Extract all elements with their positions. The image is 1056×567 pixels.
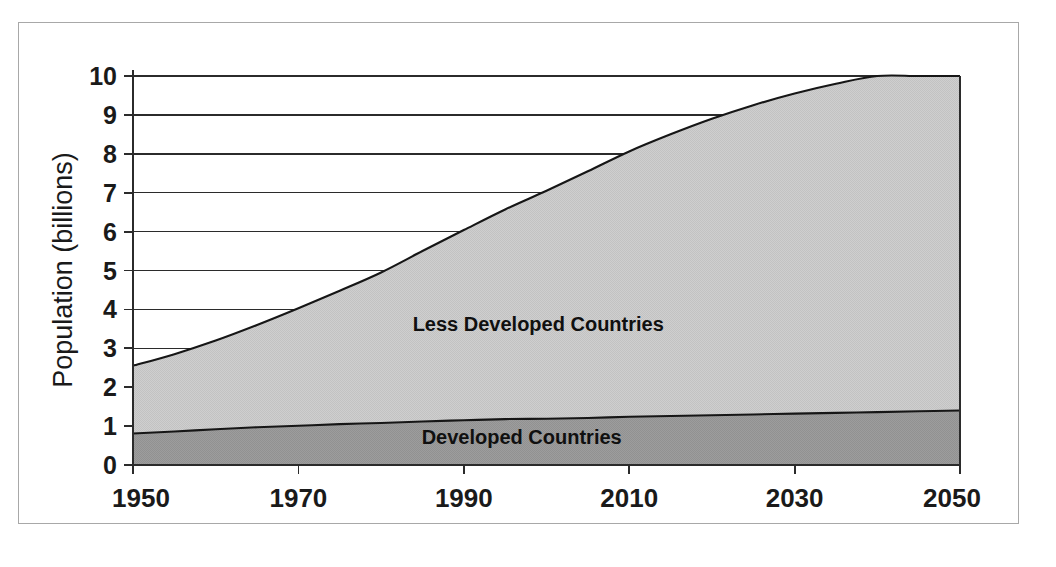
y-tick-label: 4 [103,295,117,323]
x-tick-label: 2010 [600,483,658,513]
y-tick-label: 2 [103,373,117,401]
x-axis-tick-labels: 195019701990201020302050 [112,483,981,513]
y-tick-label: 7 [103,179,117,207]
y-tick-label: 6 [103,218,117,246]
y-axis-tick-labels: 012345678910 [89,62,117,479]
y-tick-label: 10 [89,62,117,90]
y-tick-label: 1 [103,412,117,440]
y-axis-ticks [124,76,133,465]
x-tick-label: 1970 [269,483,327,513]
y-tick-label: 5 [103,257,117,285]
x-tick-label: 2030 [766,483,824,513]
figure-root: 012345678910 195019701990201020302050 Po… [0,0,1056,567]
x-tick-label: 1990 [435,483,493,513]
population-area-chart: 012345678910 195019701990201020302050 Po… [0,0,1056,567]
y-tick-label: 0 [103,451,117,479]
series-label-less-developed-countries: Less Developed Countries [413,313,664,335]
y-tick-label: 3 [103,334,117,362]
x-tick-label: 1950 [112,483,170,513]
y-tick-label: 8 [103,140,117,168]
series-label-developed-countries: Developed Countries [422,426,622,448]
y-axis-title: Population (billions) [48,152,78,388]
x-axis-ticks [133,465,960,474]
y-tick-label: 9 [103,101,117,129]
x-tick-label: 2050 [923,483,981,513]
